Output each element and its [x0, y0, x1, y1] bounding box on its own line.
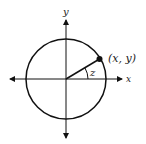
x-axis-label: x [126, 74, 131, 84]
angle-label: z [89, 67, 96, 78]
point-marker [97, 56, 103, 62]
unit-circle-diagram: y x (x, y) z [0, 0, 146, 144]
point-label: (x, y) [108, 52, 136, 65]
y-axis-label: y [62, 6, 69, 17]
angle-arc [85, 68, 88, 79]
